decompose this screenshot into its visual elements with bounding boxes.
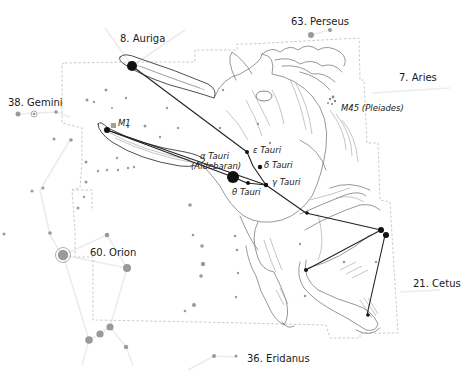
- label-delta-tauri: δ Tauri: [264, 160, 293, 170]
- star-taurus-body: [305, 211, 309, 215]
- star-gemini-3: [54, 110, 58, 114]
- field-star: [166, 107, 168, 109]
- label-m45: M45 (Pleiades): [341, 103, 404, 113]
- star-taurus-shoulder-1: [378, 227, 384, 233]
- star-gamma-tauri: [264, 183, 268, 187]
- label-theta-tauri: θ Tauri: [232, 187, 261, 197]
- star-zeta-tauri: [104, 127, 110, 133]
- star-gemini-1: [16, 112, 21, 117]
- label-gamma-tauri: γ Tauri: [272, 177, 301, 187]
- star-taurus-shoulder-2: [383, 232, 389, 238]
- field-star: [77, 207, 80, 210]
- star-epsilon-tauri: [245, 150, 249, 154]
- field-star: [116, 157, 118, 159]
- star-orion-rigel: [123, 264, 131, 272]
- field-star: [93, 101, 95, 103]
- star-taurus-knee: [304, 268, 308, 272]
- field-star: [219, 127, 221, 129]
- field-star: [212, 354, 216, 358]
- field-star: [85, 181, 88, 184]
- field-stars: [3, 28, 378, 358]
- star-taurus-hoof: [366, 313, 370, 317]
- label-eridanus: 36. Eridanus: [247, 353, 310, 364]
- label-cetus: 21. Cetus: [413, 278, 461, 289]
- label-alpha-tauri: α Tauri: [200, 151, 230, 161]
- field-star: [201, 262, 205, 266]
- field-star: [159, 136, 161, 138]
- label-orion: 60. Orion: [90, 247, 136, 258]
- star-perseus-1: [308, 32, 314, 38]
- field-star: [222, 89, 224, 91]
- star-orion-betelgeuse: [56, 248, 71, 263]
- field-star: [31, 190, 34, 193]
- field-star: [124, 345, 128, 349]
- field-star: [125, 97, 127, 99]
- field-star: [127, 167, 129, 169]
- field-star: [236, 249, 239, 252]
- field-star: [343, 261, 346, 264]
- field-star: [42, 187, 45, 190]
- label-epsilon-tauri: ε Tauri: [253, 145, 282, 155]
- field-star: [106, 169, 108, 171]
- field-star: [133, 166, 135, 168]
- field-star: [117, 169, 119, 171]
- label-aries: 7. Aries: [399, 72, 437, 83]
- field-star: [85, 161, 88, 164]
- star-orion-belt-3: [85, 336, 93, 344]
- field-star: [83, 196, 85, 198]
- label-auriga: 8. Auriga: [120, 33, 165, 44]
- field-star: [192, 303, 196, 307]
- star-orion-bellatrix: [105, 233, 110, 238]
- field-star: [97, 170, 99, 172]
- field-star: [177, 127, 179, 129]
- star-delta-tauri: [258, 165, 262, 169]
- field-star: [269, 142, 271, 144]
- field-star: [86, 99, 89, 102]
- field-star: [48, 231, 52, 235]
- taurus-boundary-notch: [72, 190, 92, 210]
- field-star: [188, 203, 192, 207]
- neighbor-figure-lines: [18, 28, 450, 370]
- field-star: [192, 234, 195, 237]
- label-gemini: 38. Gemini: [8, 97, 63, 108]
- taurus-boundary: [62, 38, 398, 338]
- field-star: [3, 233, 6, 236]
- star-chart: 8. Auriga 63. Perseus 7. Aries 38. Gemin…: [0, 0, 466, 386]
- field-star: [69, 138, 73, 142]
- field-star: [234, 235, 237, 238]
- field-star: [375, 261, 377, 263]
- m45-cluster: [327, 96, 336, 106]
- star-aldebaran: [227, 171, 239, 183]
- field-star: [235, 355, 238, 358]
- star-orion-belt-1: [106, 323, 113, 330]
- field-star: [53, 138, 56, 141]
- label-aldebaran: (Aldebaran): [191, 161, 241, 171]
- label-perseus: 63. Perseus: [291, 16, 349, 27]
- field-star: [105, 89, 108, 92]
- field-star: [111, 107, 113, 109]
- field-star: [200, 244, 204, 248]
- field-star: [199, 274, 203, 278]
- field-star: [184, 310, 187, 313]
- star-orion-belt-2: [96, 330, 103, 337]
- star-theta-tauri: [246, 181, 250, 185]
- field-star: [235, 296, 237, 298]
- field-star: [304, 295, 307, 298]
- star-elnath: [127, 61, 137, 71]
- field-star: [257, 123, 259, 125]
- field-star: [144, 125, 147, 128]
- m1-marker: [111, 123, 116, 128]
- field-star: [299, 243, 301, 245]
- label-m1: M1: [118, 118, 131, 128]
- star-perseus-2: [328, 28, 332, 32]
- field-star: [237, 272, 239, 274]
